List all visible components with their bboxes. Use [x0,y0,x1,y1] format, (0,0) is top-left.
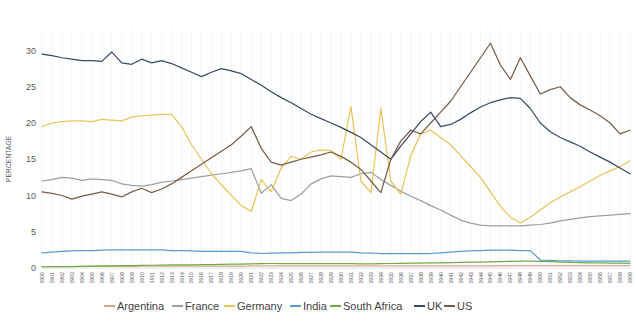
legend-label: India [303,300,328,312]
chart-legend: ArgentinaFranceGermanyIndiaSouth AfricaU… [104,300,472,312]
legend-label: Germany [237,300,283,312]
x-tick-label: 1907 [109,272,115,284]
y-tick-label: 25 [26,82,36,92]
x-tick-label: 1959 [627,272,633,284]
y-tick-label: 15 [26,154,36,164]
x-tick-label: 1915 [188,272,194,284]
x-tick-label: 1930 [338,272,344,284]
y-axis-ticks: 051015202530 [26,46,36,274]
x-tick-label: 1910 [139,272,145,284]
x-tick-label: 1906 [99,272,105,284]
x-tick-label: 1922 [258,272,264,284]
x-tick-label: 1908 [119,272,125,284]
x-tick-label: 1927 [308,272,314,284]
x-tick-label: 1923 [268,272,274,284]
x-tick-label: 1901 [49,272,55,284]
x-tick-label: 1925 [288,272,294,284]
x-tick-label: 1936 [398,272,404,284]
series-layer [42,43,630,267]
x-tick-label: 1911 [149,272,155,283]
x-tick-label: 1902 [59,272,65,284]
x-tick-label: 1938 [418,272,424,284]
x-tick-label: 1919 [228,272,234,284]
x-tick-label: 1913 [169,272,175,284]
y-tick-label: 30 [26,46,36,56]
x-tick-label: 1944 [478,272,484,284]
legend-label: Argentina [117,300,165,312]
x-tick-label: 1956 [597,272,603,284]
x-tick-label: 1918 [218,272,224,284]
legend-label: US [457,300,472,312]
x-tick-label: 1953 [567,272,573,284]
legend-label: France [185,300,219,312]
series-line-france [42,169,630,226]
x-tick-label: 1954 [577,272,583,284]
x-tick-label: 1948 [517,272,523,284]
x-tick-label: 1931 [348,272,354,284]
x-tick-label: 1903 [69,272,75,284]
x-tick-label: 1900 [39,272,45,284]
x-tick-label: 1924 [278,272,284,284]
x-tick-label: 1912 [159,272,165,284]
x-tick-label: 1932 [358,272,364,284]
x-tick-label: 1937 [408,272,414,284]
x-tick-label: 1934 [378,272,384,284]
x-tick-label: 1941 [448,272,454,284]
x-tick-label: 1942 [458,272,464,284]
y-tick-label: 5 [31,227,36,237]
legend-item-uk[interactable]: UK [414,300,443,312]
x-tick-label: 1926 [298,272,304,284]
x-tick-label: 1943 [468,272,474,284]
x-tick-label: 1951 [547,272,553,284]
x-tick-label: 1904 [79,272,85,284]
y-tick-label: 10 [26,191,36,201]
x-tick-label: 1914 [179,272,185,284]
x-tick-label: 1940 [438,272,444,284]
legend-item-india[interactable]: India [290,300,328,312]
x-tick-label: 1958 [617,272,623,284]
x-tick-label: 1955 [587,272,593,284]
x-tick-label: 1957 [607,272,613,284]
x-tick-label: 1945 [487,272,493,284]
x-tick-label: 1946 [497,272,503,284]
x-tick-label: 1916 [198,272,204,284]
x-tick-label: 1939 [428,272,434,284]
x-tick-label: 1928 [318,272,324,284]
legend-item-south-africa[interactable]: South Africa [330,300,403,312]
x-tick-label: 1929 [328,272,334,284]
y-tick-label: 0 [31,263,36,273]
x-tick-label: 1905 [89,272,95,284]
legend-label: South Africa [343,300,403,312]
legend-item-argentina[interactable]: Argentina [104,300,165,312]
y-axis-title: PERCENTAGE [5,135,12,182]
legend-item-us[interactable]: US [444,300,472,312]
x-tick-label: 1935 [388,272,394,284]
x-tick-label: 1909 [129,272,135,284]
legend-label: UK [427,300,443,312]
x-tick-label: 1950 [537,272,543,284]
x-tick-label: 1921 [248,272,254,284]
x-axis-ticks: 1900190119021903190419051906190719081909… [39,272,633,284]
x-tick-label: 1947 [507,272,513,284]
series-line-india [42,250,630,261]
x-tick-label: 1917 [208,272,214,284]
legend-item-france[interactable]: France [172,300,219,312]
x-tick-label: 1920 [238,272,244,284]
line-chart: 051015202530 190019011902190319041905190… [0,0,636,322]
x-tick-label: 1933 [368,272,374,284]
y-tick-label: 20 [26,118,36,128]
chart-canvas: 051015202530 190019011902190319041905190… [0,0,636,322]
legend-item-germany[interactable]: Germany [224,300,283,312]
x-tick-label: 1952 [557,272,563,284]
x-tick-label: 1949 [527,272,533,284]
